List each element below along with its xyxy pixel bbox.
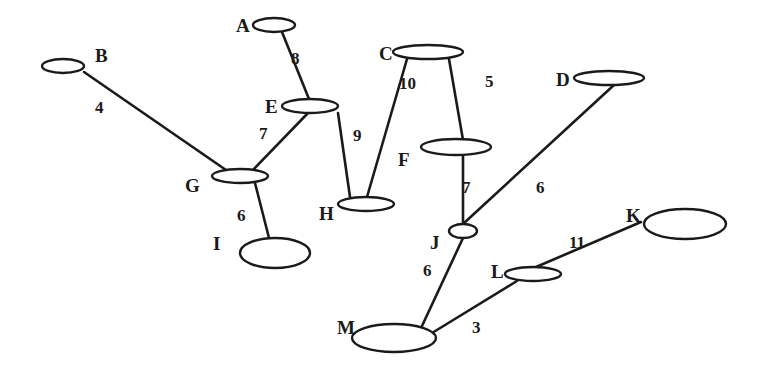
node-e: [282, 99, 338, 113]
node-label-b: B: [95, 45, 108, 66]
edge-weight-c-h: 10: [399, 74, 416, 93]
node-label-e: E: [265, 96, 278, 117]
node-i: [240, 238, 310, 268]
edge-j-m: [422, 238, 463, 326]
node-k: [644, 209, 726, 239]
node-label-d: D: [556, 69, 570, 90]
node-label-g: G: [185, 175, 200, 196]
edge-weight-l-k: 11: [569, 233, 585, 252]
node-label-k: K: [626, 205, 641, 226]
edge-e-h: [338, 113, 350, 197]
node-c: [393, 45, 463, 59]
edge-weight-c-f: 5: [485, 72, 494, 91]
node-a: [253, 18, 295, 32]
node-f: [421, 139, 491, 155]
edge-weight-g-i: 6: [237, 206, 246, 225]
node-h: [338, 197, 394, 211]
edge-weight-a-e: 8: [291, 49, 300, 68]
node-g: [212, 169, 268, 183]
node-j: [449, 224, 477, 238]
edge-weight-d-j: 6: [536, 178, 545, 197]
node-b: [42, 59, 84, 73]
edge-weight-b-g: 4: [95, 98, 104, 117]
edge-b-g: [84, 72, 226, 170]
node-m: [352, 324, 436, 352]
nodes-layer: [42, 18, 726, 352]
edge-weight-e-h: 9: [353, 126, 362, 145]
edge-l-k: [536, 222, 641, 267]
edge-weight-e-g: 7: [259, 124, 268, 143]
node-label-i: I: [213, 233, 220, 254]
edge-weight-l-m: 3: [472, 318, 481, 337]
edge-weight-j-m: 6: [423, 261, 432, 280]
node-label-m: M: [337, 317, 355, 338]
node-d: [574, 71, 644, 85]
node-l: [505, 267, 561, 281]
labels-layer: 48791057666113ABCDEFGHIJKLM: [95, 15, 641, 338]
edge-g-i: [255, 183, 269, 238]
node-label-f: F: [398, 149, 410, 170]
graph-diagram: 48791057666113ABCDEFGHIJKLM: [0, 0, 765, 371]
edge-weight-f-j: 7: [462, 178, 471, 197]
node-label-c: C: [379, 43, 393, 64]
node-label-a: A: [236, 15, 250, 36]
edge-c-f: [449, 59, 463, 140]
edge-d-j: [463, 85, 614, 224]
node-label-l: L: [491, 261, 504, 282]
node-label-j: J: [430, 232, 440, 253]
node-label-h: H: [319, 203, 334, 224]
